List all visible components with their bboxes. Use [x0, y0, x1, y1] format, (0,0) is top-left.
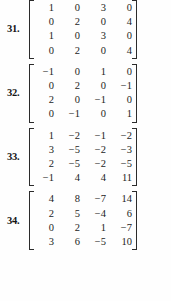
- matrix-cell: 4: [54, 171, 80, 185]
- matrix-row: 2 0 −1 0: [34, 93, 132, 107]
- matrix-row: 3 −5 −2 −3: [34, 143, 132, 157]
- matrix-cell: −1: [80, 129, 106, 143]
- exercise-number-label: 32.: [7, 88, 28, 99]
- matrix-cell: 4: [106, 15, 132, 29]
- matrix-cell: 4: [34, 192, 54, 206]
- matrix-cell: 14: [106, 192, 132, 206]
- matrix-row: 0 2 1 −7: [34, 221, 132, 235]
- matrix-cell: −7: [80, 192, 106, 206]
- matrix-cell: 2: [54, 44, 80, 58]
- exercise-item: 33. 1 −2 −1 −2 3 −5 −2 −3 2 −5 −2: [0, 128, 171, 187]
- matrix-cell: 3: [80, 1, 106, 15]
- matrix-bracketed: 1 −2 −1 −2 3 −5 −2 −3 2 −5 −2 −5: [29, 128, 137, 187]
- matrix-cell: 0: [34, 221, 54, 235]
- matrix-cell: 10: [106, 235, 132, 249]
- matrix-cell: 1: [80, 221, 106, 235]
- matrix-cell: −5: [106, 157, 132, 171]
- matrix-row: 2 −5 −2 −5: [34, 157, 132, 171]
- matrix-table: 4 8 −7 14 2 5 −4 6 0 2 1 −7: [34, 192, 132, 249]
- matrix-cell: 2: [34, 157, 54, 171]
- matrix-cell: −3: [106, 143, 132, 157]
- matrix-row: 0 2 0 4: [34, 44, 132, 58]
- matrix-cell: 6: [106, 207, 132, 221]
- matrix-cell: 3: [80, 29, 106, 43]
- matrix-table: 1 0 3 0 0 2 0 4 1 0 3 0 0: [34, 1, 132, 58]
- matrix-row: −1 0 1 0: [34, 65, 132, 79]
- matrix-row: 1 0 3 0: [34, 1, 132, 15]
- matrix-cell: 11: [106, 171, 132, 185]
- matrix-cell: 0: [34, 79, 54, 93]
- matrix-cell: 1: [34, 1, 54, 15]
- matrix-table: 1 −2 −1 −2 3 −5 −2 −3 2 −5 −2 −5: [34, 129, 132, 186]
- matrix-cell: −2: [106, 129, 132, 143]
- matrix-cell: 0: [34, 15, 54, 29]
- matrix-cell: 1: [106, 107, 132, 121]
- matrix-cell: 2: [34, 93, 54, 107]
- matrix-cell: −1: [80, 93, 106, 107]
- matrix-cell: −2: [54, 129, 80, 143]
- matrix-cell: −1: [106, 79, 132, 93]
- exercise-number-label: 34.: [7, 216, 28, 227]
- exercise-page: 31. 1 0 3 0 0 2 0 4 1 0 3: [0, 0, 171, 301]
- exercise-number-label: 31.: [7, 24, 28, 35]
- matrix-cell: 1: [34, 129, 54, 143]
- matrix-cell: 3: [34, 143, 54, 157]
- matrix-table: −1 0 1 0 0 2 0 −1 2 0 −1 0: [34, 65, 132, 122]
- matrix-cell: 0: [106, 1, 132, 15]
- matrix-cell: 8: [54, 192, 80, 206]
- matrix-cell: 0: [80, 15, 106, 29]
- matrix-cell: 2: [34, 207, 54, 221]
- matrix-cell: 0: [106, 65, 132, 79]
- matrix-bracketed: 4 8 −7 14 2 5 −4 6 0 2 1 −7: [29, 191, 137, 250]
- matrix-row: 1 −2 −1 −2: [34, 129, 132, 143]
- matrix-cell: −4: [80, 207, 106, 221]
- matrix-cell: −7: [106, 221, 132, 235]
- matrix-cell: 2: [54, 221, 80, 235]
- matrix-cell: 6: [54, 235, 80, 249]
- matrix-cell: 0: [34, 44, 54, 58]
- exercise-item: 32. −1 0 1 0 0 2 0 −1 2 0 −1: [0, 64, 171, 123]
- matrix-cell: −1: [54, 107, 80, 121]
- matrix-cell: 0: [80, 107, 106, 121]
- matrix-bracketed: 1 0 3 0 0 2 0 4 1 0 3 0 0: [29, 0, 137, 59]
- matrix-cell: 3: [34, 235, 54, 249]
- exercise-item: 31. 1 0 3 0 0 2 0 4 1 0 3: [0, 0, 171, 59]
- matrix-row: 0 −1 0 1: [34, 107, 132, 121]
- matrix-cell: 0: [54, 65, 80, 79]
- matrix-cell: 2: [54, 15, 80, 29]
- matrix-cell: 0: [80, 44, 106, 58]
- matrix-bracketed: −1 0 1 0 0 2 0 −1 2 0 −1 0: [29, 64, 137, 123]
- exercise-item: 34. 4 8 −7 14 2 5 −4 6 0 2 1: [0, 191, 171, 250]
- matrix-row: 0 2 0 −1: [34, 79, 132, 93]
- matrix-cell: 0: [54, 93, 80, 107]
- matrix-cell: 0: [34, 107, 54, 121]
- matrix-row: 2 5 −4 6: [34, 207, 132, 221]
- matrix-row: 3 6 −5 10: [34, 235, 132, 249]
- matrix-cell: 0: [54, 29, 80, 43]
- matrix-cell: 0: [106, 29, 132, 43]
- matrix-cell: 4: [106, 44, 132, 58]
- matrix-cell: −1: [34, 65, 54, 79]
- matrix-row: 4 8 −7 14: [34, 192, 132, 206]
- matrix-cell: −2: [80, 143, 106, 157]
- matrix-cell: −2: [80, 157, 106, 171]
- matrix-cell: −5: [54, 157, 80, 171]
- exercise-number-label: 33.: [7, 152, 28, 163]
- matrix-cell: 4: [80, 171, 106, 185]
- matrix-cell: 1: [80, 65, 106, 79]
- matrix-cell: 0: [106, 93, 132, 107]
- matrix-cell: 2: [54, 79, 80, 93]
- matrix-cell: −5: [54, 143, 80, 157]
- matrix-row: 1 0 3 0: [34, 29, 132, 43]
- matrix-cell: 1: [34, 29, 54, 43]
- matrix-row: −1 4 4 11: [34, 171, 132, 185]
- matrix-cell: −1: [34, 171, 54, 185]
- matrix-cell: 5: [54, 207, 80, 221]
- matrix-cell: 0: [80, 79, 106, 93]
- matrix-cell: 0: [54, 1, 80, 15]
- matrix-cell: −5: [80, 235, 106, 249]
- matrix-row: 0 2 0 4: [34, 15, 132, 29]
